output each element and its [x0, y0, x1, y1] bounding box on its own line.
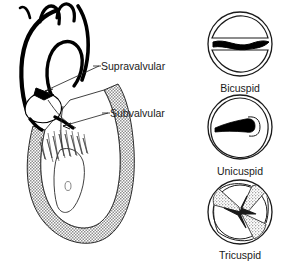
label-subvalvular: Subvalvular [110, 107, 165, 119]
cusp-panel-unicuspid: Unicuspid [208, 95, 272, 177]
caption-unicuspid: Unicuspid [217, 165, 263, 177]
caption-bicuspid: Bicuspid [220, 82, 260, 94]
label-supravalvular: Supravalvular [101, 60, 166, 72]
caption-tricuspid: Tricuspid [219, 249, 261, 261]
aortic-valve-figure: Supravalvular Subvalvular Bicuspid Unicu… [0, 0, 281, 264]
